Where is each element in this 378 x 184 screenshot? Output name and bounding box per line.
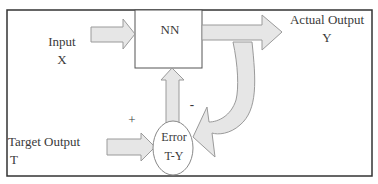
plus-sign: +	[127, 112, 137, 127]
error-label-line1: Error	[155, 130, 193, 145]
target-output-line2: T	[8, 152, 103, 167]
actual-output-line2: Y	[282, 30, 372, 45]
error-label-line2: T-Y	[155, 149, 193, 164]
actual-output-line1: Actual Output	[282, 12, 372, 27]
nn-label: NN	[150, 22, 190, 37]
input-label-line2: X	[42, 52, 82, 67]
target-output-label: Target Output T	[8, 134, 103, 167]
target-output-line1: Target Output	[8, 134, 103, 149]
nn-box	[135, 10, 202, 68]
input-label: Input X	[42, 34, 82, 67]
error-label: Error T-Y	[155, 130, 193, 164]
input-label-line1: Input	[42, 34, 82, 49]
minus-sign: -	[188, 97, 196, 112]
actual-output-label: Actual Output Y	[282, 12, 372, 45]
